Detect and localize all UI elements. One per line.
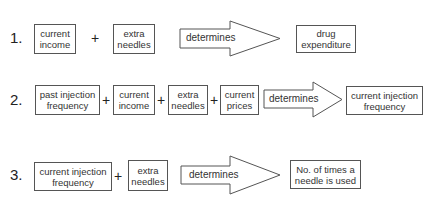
- output-box-times-needle-used: No. of times a needle is used: [290, 160, 361, 189]
- arrow-label: determines: [189, 169, 238, 181]
